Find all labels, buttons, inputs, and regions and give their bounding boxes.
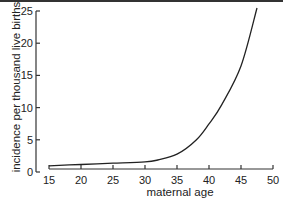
x-tick-label: 25 bbox=[107, 174, 119, 186]
incidence-curve bbox=[49, 8, 257, 166]
y-tick-label: 5 bbox=[27, 134, 33, 146]
x-axis-label: maternal age bbox=[130, 186, 230, 198]
x-tick-label: 15 bbox=[43, 174, 55, 186]
x-tick-label: 20 bbox=[75, 174, 87, 186]
x-tick-label: 30 bbox=[139, 174, 151, 186]
x-tick-label: 40 bbox=[203, 174, 215, 186]
y-tick-label: 0 bbox=[27, 166, 33, 178]
x-tick-label: 45 bbox=[235, 174, 247, 186]
line-chart: 05101520251520253035404550 bbox=[0, 0, 283, 206]
x-tick-label: 35 bbox=[171, 174, 183, 186]
axes: 05101520251520253035404550 bbox=[21, 5, 279, 186]
y-axis-label: incidence per thousand live births bbox=[10, 0, 24, 177]
x-tick-label: 50 bbox=[267, 174, 279, 186]
